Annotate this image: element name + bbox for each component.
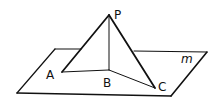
- label-B: B: [103, 76, 111, 90]
- diagram-canvas: P A B C m: [0, 0, 216, 104]
- label-plane-m: m: [181, 52, 193, 66]
- pyramid-plane-diagram: P A B C m: [0, 0, 216, 104]
- label-C: C: [158, 80, 166, 94]
- segment-PA: [62, 15, 109, 72]
- segment-AB: [62, 70, 109, 72]
- label-A: A: [46, 68, 55, 82]
- plane-bottom-edge: [17, 93, 171, 96]
- segment-BC: [109, 70, 155, 88]
- label-P: P: [114, 8, 121, 22]
- plane-top-edge-right: [134, 51, 207, 52]
